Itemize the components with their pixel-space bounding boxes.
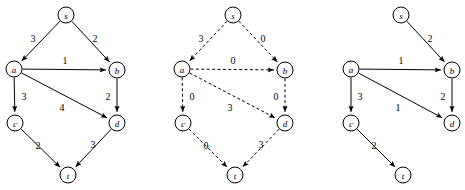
graph-node-t: t [227,167,243,183]
node-label-s: s [231,11,235,21]
graph-edge-a-c: 3 [351,78,363,112]
graph-node-s: s [58,7,74,23]
edge-weight-s-a: 3 [199,33,204,44]
edge-weight-s-a: 3 [31,33,36,44]
edge-line-a-c [14,77,15,111]
edge-line-a-b [190,69,273,70]
graph-node-a: a [343,61,359,77]
node-label-d: d [115,119,120,129]
graph-edge-s-b: 2 [72,21,110,62]
graph-edge-d-t: 3 [76,129,111,167]
edge-weight-b-d: 2 [441,91,446,102]
node-label-c: c [349,119,353,129]
edge-weight-b-d: 2 [106,91,111,102]
edge-weight-b-d: 0 [274,91,279,102]
graph-node-b: b [109,62,125,78]
graph-node-b: b [277,62,293,78]
graph-edge-d-t: 3 [243,129,279,167]
edge-weight-a-c: 3 [22,91,27,102]
edge-weight-d-t: 3 [259,139,264,150]
edge-weight-c-t: 2 [372,140,377,151]
right-graph: 213122sabcdt [343,7,460,183]
graph-edge-b-d: 2 [106,79,118,112]
graph-edge-a-d: 3 [190,73,276,118]
edge-weight-a-d: 4 [60,102,65,113]
graph-node-s: s [225,7,241,23]
graph-edge-s-b: 0 [239,21,277,62]
edge-weight-a-b: 0 [231,55,236,66]
graph-edge-a-c: 0 [182,77,194,111]
edge-line-s-a [22,21,60,61]
edge-weight-a-c: 0 [190,91,195,102]
graph-edge-s-a: 3 [22,21,60,61]
edge-weight-a-b: 1 [63,55,68,66]
edge-weight-d-t: 3 [91,139,96,150]
graph-edge-c-t: 2 [21,129,60,167]
graph-node-t: t [60,167,76,183]
graph-edge-b-d: 0 [274,79,286,112]
graph-figure: 32134223sabcdt30003003sabcdt213122sabcdt [0,0,465,190]
graph-edge-a-b: 0 [190,55,273,70]
node-label-d: d [283,119,288,129]
edge-weight-a-d: 3 [228,102,233,113]
node-label-c: c [181,119,185,129]
node-label-a: a [349,65,354,75]
node-label-c: c [13,119,17,129]
edge-weight-c-t: 0 [204,140,209,151]
graph-canvas: 32134223sabcdt30003003sabcdt213122sabcdt [0,0,465,190]
graph-node-d: d [109,115,125,131]
node-label-s: s [399,11,403,21]
graph-edge-a-d: 4 [22,73,108,118]
graph-node-b: b [444,62,460,78]
node-label-a: a [180,65,185,75]
left-graph: 32134223sabcdt [6,7,125,183]
edge-weight-s-b: 2 [93,33,98,44]
graph-edge-a-d: 1 [358,73,442,118]
edge-weight-c-t: 2 [36,140,41,151]
edge-line-s-b [407,21,445,62]
graph-edge-c-t: 0 [189,129,227,167]
graph-edge-a-b: 1 [22,55,105,70]
graph-edge-s-b: 2 [407,21,445,62]
graph-edge-b-d: 2 [441,79,453,112]
edge-line-s-a [190,21,227,61]
edge-line-a-c [182,77,183,111]
edge-weight-s-b: 0 [261,33,266,44]
edge-line-a-b [359,69,440,70]
middle-graph: 30003003sabcdt [174,7,293,183]
graph-edge-a-b: 1 [359,55,440,70]
graph-node-s: s [393,7,409,23]
graph-node-a: a [6,61,22,77]
graph-node-d: d [277,115,293,131]
node-label-s: s [64,11,68,21]
graph-edge-s-a: 3 [190,21,227,61]
graph-node-c: c [7,115,23,131]
graph-node-c: c [175,115,191,131]
graph-node-c: c [343,115,359,131]
node-label-b: b [450,66,455,76]
edge-line-s-b [72,21,110,62]
edge-weight-a-d: 1 [396,102,401,113]
edge-weight-a-c: 3 [358,91,363,102]
node-label-d: d [450,119,455,129]
graph-edge-c-t: 2 [357,129,395,167]
edge-line-c-t [21,129,60,167]
graphs-layer: 32134223sabcdt30003003sabcdt213122sabcdt [6,7,460,183]
edge-weight-a-b: 1 [399,55,404,66]
edge-line-a-b [22,69,105,70]
node-label-b: b [115,66,120,76]
graph-node-t: t [395,167,411,183]
graph-edge-a-c: 3 [14,77,26,111]
graph-node-d: d [444,115,460,131]
edge-line-s-b [239,21,277,62]
node-label-b: b [283,66,288,76]
node-label-a: a [12,65,17,75]
graph-node-a: a [174,61,190,77]
edge-weight-s-b: 2 [428,33,433,44]
